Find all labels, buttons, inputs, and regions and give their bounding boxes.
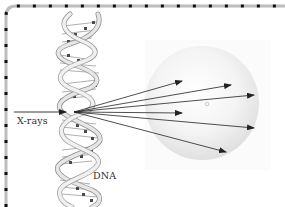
dna-label: DNA [93, 170, 116, 181]
diagram-canvas: X-rays DNA [0, 0, 285, 207]
diffraction-sphere [145, 40, 270, 170]
xrays-label: X-rays [17, 115, 48, 126]
diffraction-diagram [0, 0, 285, 207]
